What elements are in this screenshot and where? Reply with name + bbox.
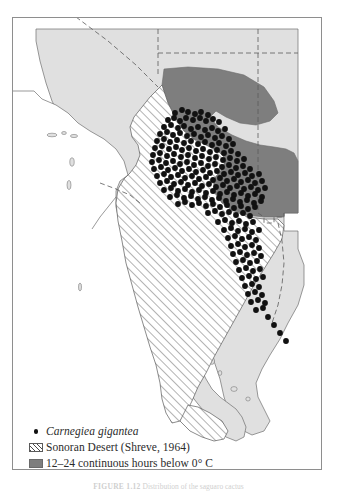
occurrence-dot [215,219,221,225]
occurrence-dot [247,213,253,219]
legend-swatch-wrap [26,459,46,468]
occurrence-dot [271,322,277,328]
occurrence-dot [245,206,251,212]
occurrence-dot [230,251,236,257]
occurrence-dot [212,208,218,214]
occurrence-dot [203,203,209,209]
occurrence-dot [228,243,234,249]
occurrence-dot [156,157,162,163]
occurrence-dot [223,143,229,149]
occurrence-dot [244,197,250,203]
occurrence-dot [239,236,245,242]
occurrence-dot [163,160,169,166]
occurrence-dot [242,226,248,232]
occurrence-dot [170,158,176,164]
occurrence-dot [257,266,263,272]
occurrence-dot [259,292,265,298]
occurrence-dot [171,115,177,121]
occurrence-dot [246,234,252,240]
occurrence-dot [242,283,248,289]
distribution-map [12,17,322,470]
occurrence-dot [258,198,264,204]
occurrence-dot [178,179,184,185]
occurrence-dot [209,125,215,131]
occurrence-dot [253,276,259,282]
occurrence-dot [220,157,226,163]
occurrence-dot [175,125,181,131]
occurrence-dot [164,153,170,159]
occurrence-dot [161,136,167,142]
occurrence-dot [150,152,156,158]
occurrence-dot [195,141,201,147]
occurrence-dot [238,203,244,209]
occurrence-dot [154,173,160,179]
occurrence-dot [168,122,174,128]
occurrence-dot [189,173,195,179]
occurrence-dot [217,175,223,181]
occurrence-dot [250,219,256,225]
occurrence-dot [226,136,232,142]
occurrence-dot [175,172,181,178]
occurrence-dot [182,199,188,205]
occurrence-dot [220,182,226,188]
gulf-island [231,387,237,392]
occurrence-dot [241,156,247,162]
occurrence-dot [186,145,192,151]
occurrence-dot [222,217,228,223]
occurrence-dot [198,134,204,140]
occurrence-dot [185,109,191,115]
occurrence-dot [283,338,289,344]
occurrence-dot [175,201,181,207]
occurrence-dot [233,212,239,218]
occurrence-dot [252,191,258,197]
occurrence-dot [225,235,231,241]
map-panel [12,17,322,470]
occurrence-dot [237,249,243,255]
occurrence-dot [236,267,242,273]
occurrence-dot [179,147,185,153]
occurrence-dot [199,153,205,159]
occurrence-dot [277,330,283,336]
occurrence-dot [173,144,179,150]
occurrence-dot [249,242,255,248]
occurrence-dot [166,146,172,152]
occurrence-dot [161,124,167,130]
figure-caption-text: Distribution of the saguaro cactus [143,482,244,491]
legend-item-sonoran-desert: Sonoran Desert (Shreve, 1964) [26,440,256,455]
occurrence-dot [265,314,271,320]
occurrence-dot [236,218,242,224]
occurrence-dot [228,169,234,175]
occurrence-dot [228,148,234,154]
occurrence-dot [172,165,178,171]
occurrence-dot [255,297,261,303]
occurrence-dot [216,119,222,125]
figure-caption: FIGURE 1.12 Distribution of the saguaro … [0,482,337,491]
occurrence-dot [216,195,222,201]
channel-island [70,158,74,166]
occurrence-dot [188,126,194,132]
occurrence-dot [214,168,220,174]
occurrence-dot [192,111,198,117]
occurrence-dot [202,127,208,133]
occurrence-dot [210,201,216,207]
occurrence-dot [184,159,190,165]
occurrence-dot [188,138,194,144]
occurrence-dot [190,117,196,123]
occurrence-dot [172,110,178,116]
occurrence-dot [181,123,187,129]
legend-label-cold-hours: 12–24 continuous hours below 0° C [46,457,213,470]
occurrence-dot [196,187,202,193]
occurrence-dot [185,152,191,158]
hatched-box-icon [29,443,43,452]
occurrence-dot [252,204,258,210]
occurrence-dot [151,166,157,172]
occurrence-dot [188,193,194,199]
occurrence-dot [235,241,241,247]
occurrence-dot [248,299,254,305]
occurrence-dot [213,154,219,160]
occurrence-dot [227,155,233,161]
occurrence-dot [214,147,220,153]
occurrence-dot [192,180,198,186]
occurrence-dot [152,145,158,151]
legend-swatch-wrap [26,429,46,434]
